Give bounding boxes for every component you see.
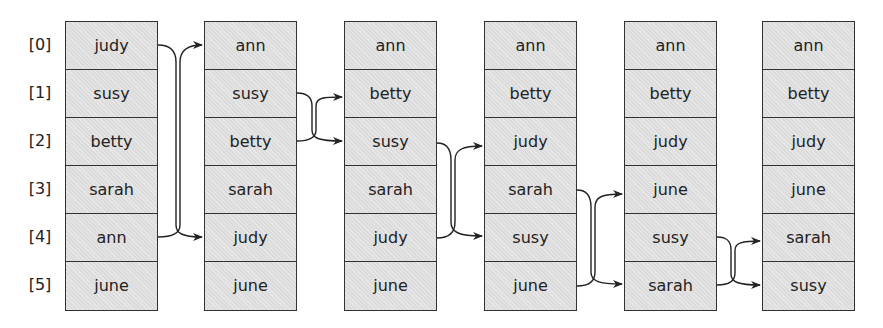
swap-arrow-icon — [577, 190, 622, 284]
swap-arrow-icon — [437, 143, 482, 236]
swap-arrow-icon — [437, 146, 482, 238]
swap-arrow-icon — [297, 97, 342, 141]
swap-arrow-icon — [717, 241, 760, 285]
swap-arrow-icon — [577, 194, 622, 286]
swap-arrow-icon — [297, 93, 342, 141]
swap-arrows — [0, 0, 883, 328]
swap-arrow-icon — [158, 45, 202, 237]
